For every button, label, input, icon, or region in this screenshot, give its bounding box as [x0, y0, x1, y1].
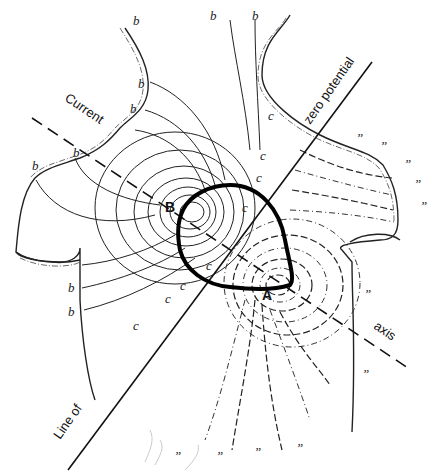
zero-potential-label: zero potential [300, 54, 357, 127]
svg-text:b: b [32, 158, 39, 173]
point-a-label: A [262, 287, 272, 303]
svg-text:b: b [252, 8, 259, 23]
svg-text:”: ” [356, 130, 363, 145]
line-of-label: Line of [50, 401, 85, 442]
svg-text:”: ” [380, 138, 387, 153]
svg-text:”: ” [414, 176, 421, 191]
dipole-field-diagram: B A Current axis Line of zero potential … [0, 0, 440, 473]
svg-text:”: ” [296, 440, 303, 455]
axis-label: axis [371, 318, 399, 344]
zero-markers: c c c c c c c c [133, 108, 274, 333]
svg-text:b: b [130, 101, 137, 116]
svg-text:b: b [68, 280, 75, 295]
svg-text:”: ” [254, 444, 261, 459]
svg-text:”: ” [420, 198, 427, 213]
svg-text:”: ” [216, 448, 223, 463]
zero-potential-line [68, 62, 372, 470]
pencil-annotation [145, 430, 198, 470]
svg-text:c: c [180, 278, 186, 293]
svg-text:b: b [68, 304, 75, 319]
svg-text:b: b [73, 145, 80, 160]
svg-text:”: ” [364, 286, 371, 301]
svg-text:c: c [256, 170, 262, 185]
svg-text:c: c [206, 258, 212, 273]
svg-text:b: b [210, 8, 217, 23]
svg-text:b: b [138, 76, 145, 91]
point-b-label: B [165, 199, 175, 215]
svg-text:b: b [133, 13, 140, 28]
negative-markers: ” ” ” ” ” ” ” ” ” ” ” [174, 130, 427, 463]
svg-text:c: c [242, 200, 248, 215]
svg-text:c: c [165, 291, 171, 306]
svg-text:c: c [260, 148, 266, 163]
svg-text:c: c [268, 108, 274, 123]
svg-text:”: ” [174, 448, 181, 463]
current-label: Current [62, 90, 107, 127]
svg-text:”: ” [362, 366, 369, 381]
svg-text:c: c [133, 318, 139, 333]
svg-text:”: ” [404, 156, 411, 171]
